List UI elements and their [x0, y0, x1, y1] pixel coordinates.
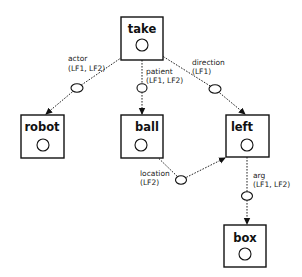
edge-arg: arg (LF1, LF2) [242, 157, 291, 224]
edge-label-actor-forms: (LF1, LF2) [68, 64, 105, 73]
edge-label-direction-role: direction [192, 58, 225, 67]
edge-node-patient[interactable] [137, 84, 147, 92]
edge-label-direction-forms: (LF1) [192, 67, 211, 76]
edge-node-arg[interactable] [242, 192, 253, 200]
edge-label-patient-role: patient [146, 67, 173, 76]
edge-node-direction[interactable] [209, 85, 221, 93]
node-label-left: left [231, 120, 254, 134]
edge-label-actor-role: actor [68, 54, 88, 63]
edge-node-actor[interactable] [71, 84, 83, 92]
node-robot[interactable]: robot [21, 115, 64, 158]
node-label-box: box [233, 231, 257, 245]
semantic-graph-diagram: actor (LF1, LF2) patient (LF1, LF2) dire… [0, 0, 302, 277]
node-port-left [241, 139, 253, 151]
node-label-take: take [128, 22, 157, 36]
edge-label-patient-forms: (LF1, LF2) [146, 76, 183, 85]
node-port-box [239, 248, 251, 260]
edge-label-location-forms: (LF2) [140, 178, 159, 187]
edge-label-arg-role: arg [253, 171, 266, 180]
node-port-take [136, 39, 148, 51]
node-label-ball: ball [135, 120, 159, 134]
node-left[interactable]: left [226, 115, 269, 157]
node-box[interactable]: box [224, 225, 266, 267]
edge-label-arg-forms: (LF1, LF2) [253, 180, 290, 189]
node-port-robot [37, 139, 49, 151]
node-label-robot: robot [24, 120, 60, 134]
node-take[interactable]: take [121, 17, 163, 60]
edge-label-location-role: location [140, 169, 170, 178]
node-ball[interactable]: ball [121, 115, 163, 158]
node-port-ball [135, 139, 147, 151]
edge-node-location[interactable] [176, 176, 187, 184]
